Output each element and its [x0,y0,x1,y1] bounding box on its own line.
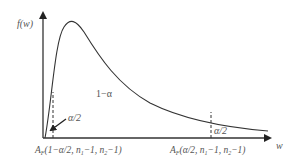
left-tail-label: α/2 [68,112,81,123]
left-critical-value-label: AF(1−α/2, n1−1, n2−1) [35,145,122,156]
x-axis-label: w [276,140,283,151]
f-distribution-diagram [0,0,297,165]
y-axis-label: f(w) [17,18,33,29]
central-region-label: 1−α [96,88,112,99]
right-tail-label: α/2 [214,125,227,136]
right-critical-value-label: AF(α/2, n1−1, n2−1) [170,145,246,156]
